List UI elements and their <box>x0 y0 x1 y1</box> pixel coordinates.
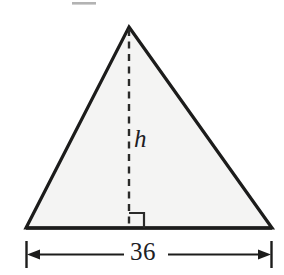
triangle-shape <box>26 27 272 228</box>
arrow-right-icon <box>258 250 271 260</box>
arrow-left-icon <box>27 250 40 260</box>
base-measure-label: 36 <box>130 239 156 264</box>
scan-artifact-bar <box>72 2 96 5</box>
height-label: h <box>134 126 147 151</box>
geometry-figure: h 36 <box>0 0 284 275</box>
